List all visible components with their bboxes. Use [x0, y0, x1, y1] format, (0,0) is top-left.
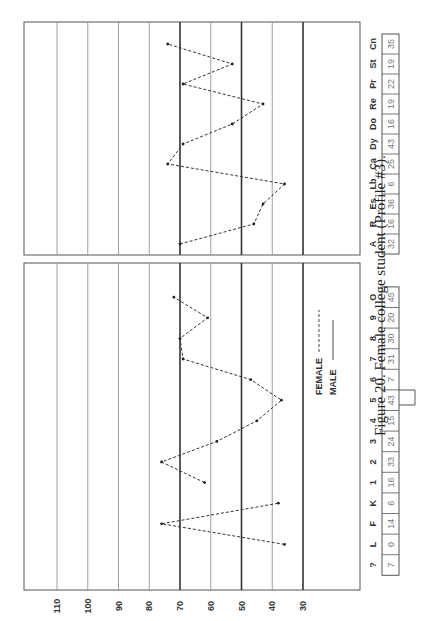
data-point: [262, 203, 265, 206]
data-point: [277, 502, 280, 505]
category-label: Re: [368, 98, 378, 110]
data-point: [283, 543, 286, 546]
data-point: [182, 143, 185, 146]
y-tick-label: 60: [206, 601, 216, 611]
data-point: [179, 243, 182, 246]
category-label: F: [368, 521, 378, 527]
data-point: [166, 163, 169, 166]
y-tick-label: 100: [83, 598, 93, 613]
raw-score-value: 16: [386, 119, 396, 129]
raw-score-value: 35: [386, 39, 396, 49]
data-point: [166, 43, 169, 46]
raw-score-value: 43: [386, 139, 396, 149]
series-line-female: [168, 44, 285, 244]
category-label: 3: [368, 439, 378, 444]
data-point: [172, 296, 175, 299]
raw-score-value: 14: [386, 519, 396, 529]
category-label: Do: [368, 118, 378, 130]
data-point: [182, 83, 185, 86]
category-label: L: [368, 541, 378, 547]
raw-score-value: 19: [386, 99, 396, 109]
legend-label-female: FEMALE: [314, 358, 324, 395]
data-point: [283, 183, 286, 186]
category-label: Cn: [368, 38, 378, 50]
y-tick-label: 30: [298, 601, 308, 611]
data-point: [182, 358, 185, 361]
figure-caption: Figure 20. Female college student (Profi…: [372, 155, 389, 436]
data-point: [206, 316, 209, 319]
y-tick-label: 70: [175, 601, 185, 611]
data-point: [231, 63, 234, 66]
y-tick-label: 50: [237, 601, 247, 611]
data-point: [179, 337, 182, 340]
raw-score-value: 22: [386, 79, 396, 89]
raw-score-value: 24: [386, 436, 396, 446]
data-point: [203, 481, 206, 484]
raw-score-value: 19: [386, 59, 396, 69]
data-point: [216, 440, 219, 443]
category-label: Pr: [368, 79, 378, 89]
category-label: Dy: [368, 138, 378, 150]
category-label: St: [368, 59, 378, 68]
category-label: ?: [368, 562, 378, 568]
raw-score-value: 6: [386, 501, 396, 506]
data-point: [252, 223, 255, 226]
data-point: [262, 103, 265, 106]
y-tick-label: 80: [144, 601, 154, 611]
y-tick-label: 40: [267, 601, 277, 611]
category-label: 1: [368, 480, 378, 485]
data-point: [249, 378, 252, 381]
panel-frame: [24, 22, 360, 255]
raw-score-value: 0: [386, 542, 396, 547]
y-tick-label: 110: [52, 599, 62, 614]
data-point: [231, 123, 234, 126]
legend-label-male: MALE: [328, 370, 338, 396]
data-point: [280, 399, 283, 402]
data-point: [160, 522, 163, 525]
raw-score-value: 7: [386, 562, 396, 567]
data-point: [160, 461, 163, 464]
raw-score-value: 33: [386, 457, 396, 467]
data-point: [255, 419, 258, 422]
category-label: 2: [368, 459, 378, 464]
raw-score-value: 16: [386, 478, 396, 488]
panel-frame: [24, 263, 360, 590]
category-label: K: [368, 499, 378, 506]
y-tick-label: 90: [114, 601, 124, 611]
table-notch: [399, 390, 415, 405]
